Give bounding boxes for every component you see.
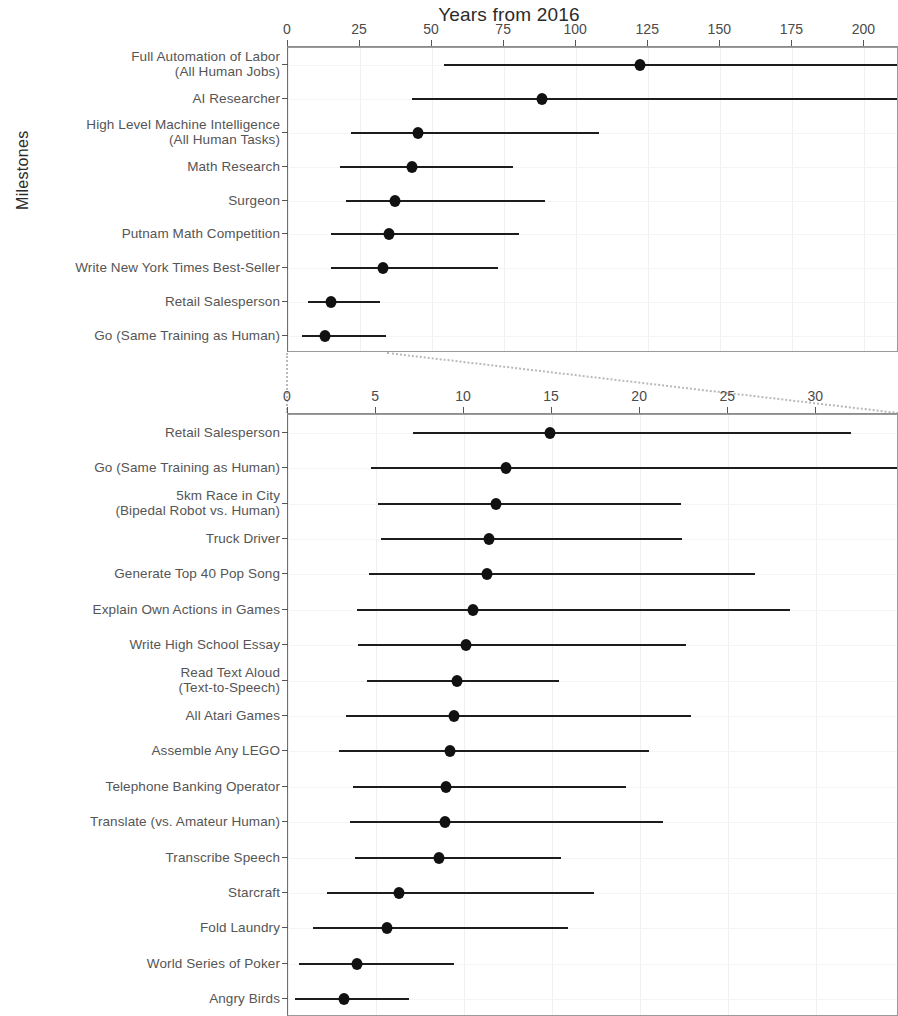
gridline-vertical	[288, 48, 289, 351]
y-axis-tick-mark	[282, 538, 288, 539]
category-label: Angry Birds	[20, 991, 280, 1006]
y-axis-tick-mark	[282, 432, 288, 433]
median-point-marker	[383, 228, 394, 240]
confidence-interval-bar	[331, 267, 498, 269]
x-axis-tick-label: 10	[455, 388, 471, 404]
category-label: Telephone Banking Operator	[20, 778, 280, 793]
category-label: Generate Top 40 Pop Song	[20, 566, 280, 581]
x-axis-tick-label: 50	[423, 21, 439, 37]
confidence-interval-bar	[381, 538, 682, 540]
confidence-interval-bar	[351, 132, 599, 134]
median-point-marker	[339, 993, 350, 1005]
median-point-marker	[467, 604, 478, 616]
median-point-marker	[448, 710, 459, 722]
bottom-panel	[287, 414, 898, 1016]
y-axis-tick-mark	[282, 335, 288, 336]
confidence-interval-bar	[369, 573, 755, 575]
x-axis-tick-label: 175	[780, 21, 803, 37]
confidence-interval-bar	[340, 166, 513, 168]
x-axis-tick-mark	[647, 40, 648, 46]
y-axis-tick-mark	[282, 963, 288, 964]
x-axis-tick-label: 0	[283, 21, 291, 37]
x-axis-line	[287, 46, 898, 47]
confidence-interval-bar	[358, 644, 686, 646]
median-point-marker	[326, 296, 337, 308]
gridline-vertical	[792, 48, 793, 351]
y-axis-tick-mark	[282, 64, 288, 65]
category-label: 5km Race in City (Bipedal Robot vs. Huma…	[20, 488, 280, 518]
y-axis-tick-mark	[282, 503, 288, 504]
x-axis-tick-mark	[719, 40, 720, 46]
y-axis-tick-mark	[282, 573, 288, 574]
gridline-vertical	[864, 48, 865, 351]
confidence-interval-bar	[355, 857, 561, 859]
category-label: Go (Same Training as Human)	[20, 328, 280, 343]
confidence-interval-bar	[367, 680, 559, 682]
x-axis-tick-label: 25	[351, 21, 367, 37]
y-axis-tick-mark	[282, 750, 288, 751]
confidence-interval-bar	[295, 998, 409, 1000]
gridline-vertical	[816, 415, 817, 1015]
x-axis-tick-label: 20	[631, 388, 647, 404]
median-point-marker	[441, 781, 452, 793]
x-axis-tick-mark	[863, 40, 864, 46]
category-label: Assemble Any LEGO	[20, 743, 280, 758]
gridline-vertical	[720, 48, 721, 351]
median-point-marker	[378, 262, 389, 274]
x-axis-tick-label: 0	[283, 388, 291, 404]
confidence-interval-bar	[346, 200, 545, 202]
x-axis-tick-label: 150	[708, 21, 731, 37]
confidence-interval-bar	[346, 715, 691, 717]
y-axis-tick-mark	[282, 467, 288, 468]
y-axis-tick-mark	[282, 233, 288, 234]
category-label: Surgeon	[20, 192, 280, 207]
category-label: Truck Driver	[20, 530, 280, 545]
confidence-interval-bar	[339, 750, 649, 752]
y-axis-tick-mark	[282, 132, 288, 133]
category-label: Translate (vs. Amateur Human)	[20, 814, 280, 829]
category-label: Read Text Aloud (Text-to-Speech)	[20, 665, 280, 695]
x-axis-tick-mark	[431, 40, 432, 46]
confidence-interval-bar	[412, 98, 898, 100]
confidence-interval-bar	[350, 821, 663, 823]
category-label: Write New York Times Best-Seller	[20, 260, 280, 275]
y-axis-tick-mark	[282, 609, 288, 610]
category-label: Write High School Essay	[20, 637, 280, 652]
y-axis-tick-mark	[282, 166, 288, 167]
top-panel-frame	[287, 47, 898, 352]
y-axis-tick-mark	[282, 821, 288, 822]
bottom-panel-frame	[287, 414, 898, 1016]
category-label: Explain Own Actions in Games	[20, 601, 280, 616]
category-label: Full Automation of Labor (All Human Jobs…	[20, 49, 280, 79]
median-point-marker	[434, 852, 445, 864]
x-axis-tick-mark	[551, 407, 552, 413]
median-point-marker	[444, 745, 455, 757]
category-label: Fold Laundry	[20, 920, 280, 935]
median-point-marker	[501, 462, 512, 474]
confidence-interval-bar	[413, 432, 851, 434]
confidence-interval-bar	[353, 786, 626, 788]
category-label: AI Researcher	[20, 90, 280, 105]
x-axis-tick-mark	[359, 40, 360, 46]
median-point-marker	[393, 887, 404, 899]
confidence-interval-bar	[357, 609, 790, 611]
category-label: Transcribe Speech	[20, 849, 280, 864]
median-point-marker	[452, 675, 463, 687]
x-axis-tick-label: 25	[719, 388, 735, 404]
y-axis-tick-mark	[282, 301, 288, 302]
top-panel	[287, 47, 898, 352]
forecast-figure: Years from 2016 Milestones 0255075100125…	[0, 0, 898, 1016]
y-axis-tick-mark	[282, 267, 288, 268]
confidence-interval-bar	[302, 335, 386, 337]
gridline-vertical	[576, 48, 577, 351]
x-axis-tick-mark	[287, 407, 288, 413]
x-axis-tick-mark	[639, 407, 640, 413]
x-axis-tick-label: 5	[371, 388, 379, 404]
median-point-marker	[536, 93, 547, 105]
confidence-interval-bar	[308, 301, 380, 303]
x-axis-tick-label: 30	[807, 388, 823, 404]
category-label: All Atari Games	[20, 708, 280, 723]
gridline-vertical	[648, 48, 649, 351]
category-label: Starcraft	[20, 885, 280, 900]
category-label: High Level Machine Intelligence (All Hum…	[20, 117, 280, 147]
